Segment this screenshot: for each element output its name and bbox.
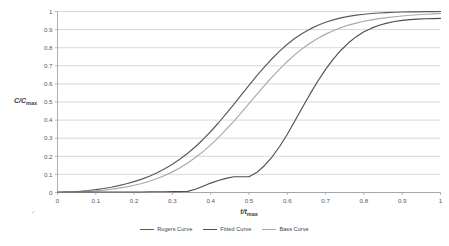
chart-legend: Rogers CurveFitted CurveBass Curve (0, 226, 449, 232)
y-tick-label: 0.7 (44, 62, 53, 69)
x-tick-label: 0.1 (91, 197, 100, 204)
y-tick-label: 0.8 (44, 44, 53, 51)
x-tick-label: 0.8 (360, 197, 369, 204)
x-tick-label: 0 (56, 197, 60, 204)
y-tick-label: 0.9 (44, 26, 53, 33)
y-tick-label: 0.1 (44, 171, 53, 178)
chart-svg: 00.10.20.30.40.50.60.70.80.91 00.10.20.3… (0, 0, 449, 246)
x-tick-labels-group: 00.10.20.30.40.50.60.70.80.91 (56, 197, 443, 204)
y-tick-label: 1 (49, 8, 53, 15)
series-line (58, 18, 441, 192)
chart-container: 00.10.20.30.40.50.60.70.80.91 00.10.20.3… (0, 0, 449, 246)
y-tick-label: 0 (49, 189, 53, 196)
legend-label: Fitted Curve (220, 226, 251, 232)
legend-color-swatch (203, 229, 217, 230)
legend-item[interactable]: Bass Curve (262, 226, 308, 232)
legend-item[interactable]: Fitted Curve (203, 226, 251, 232)
gridlines-group (58, 12, 441, 193)
stray-artifact-mark: ✓ (31, 209, 35, 215)
x-tick-label: 0.7 (321, 197, 330, 204)
y-axis-title-subscript: max (26, 100, 37, 106)
series-line (58, 13, 441, 192)
y-tick-label: 0.5 (44, 98, 53, 105)
y-axis-title: C/Cmax (14, 97, 37, 106)
x-tick-label: 0.6 (283, 197, 292, 204)
x-tick-label: 0.5 (245, 197, 254, 204)
y-tick-label: 0.6 (44, 80, 53, 87)
x-axis-title-subscript: max (247, 211, 258, 217)
legend-color-swatch (140, 229, 154, 230)
legend-color-swatch (262, 229, 276, 230)
x-tick-label: 0.3 (168, 197, 177, 204)
x-tick-label: 0.2 (130, 197, 139, 204)
x-tick-label: 0.9 (398, 197, 407, 204)
y-tick-labels-group: 00.10.20.30.40.50.60.70.80.91 (44, 8, 53, 196)
y-tick-label: 0.4 (44, 116, 53, 123)
legend-item[interactable]: Rogers Curve (140, 226, 192, 232)
y-tick-label: 0.3 (44, 134, 53, 141)
x-tick-label: 1 (439, 197, 443, 204)
x-tick-label: 0.4 (206, 197, 215, 204)
x-axis-title: t/tmax (227, 208, 271, 217)
legend-label: Bass Curve (279, 226, 308, 232)
y-tick-label: 0.2 (44, 153, 53, 160)
legend-label: Rogers Curve (157, 226, 192, 232)
